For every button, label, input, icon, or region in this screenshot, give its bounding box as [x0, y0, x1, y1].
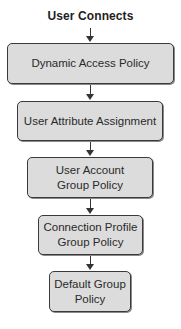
- step-dynamic-access-policy: Dynamic Access Policy: [7, 43, 174, 84]
- step-label: Default Group Policy: [54, 277, 126, 307]
- step-connection-profile-group-policy: Connection Profile Group Policy: [38, 215, 143, 255]
- arrow-down-icon: [85, 256, 95, 270]
- arrow-down-icon: [85, 199, 95, 214]
- step-user-attribute-assignment: User Attribute Assignment: [17, 101, 163, 141]
- step-label: User Account Group Policy: [40, 163, 140, 193]
- step-default-group-policy: Default Group Policy: [49, 271, 131, 312]
- arrow-down-icon: [85, 142, 95, 156]
- arrow-down-icon: [85, 85, 95, 100]
- step-user-account-group-policy: User Account Group Policy: [27, 157, 153, 198]
- arrow-down-icon: [85, 28, 95, 42]
- flow-title: User Connects: [0, 9, 181, 23]
- step-label: Connection Profile Group Policy: [43, 220, 138, 250]
